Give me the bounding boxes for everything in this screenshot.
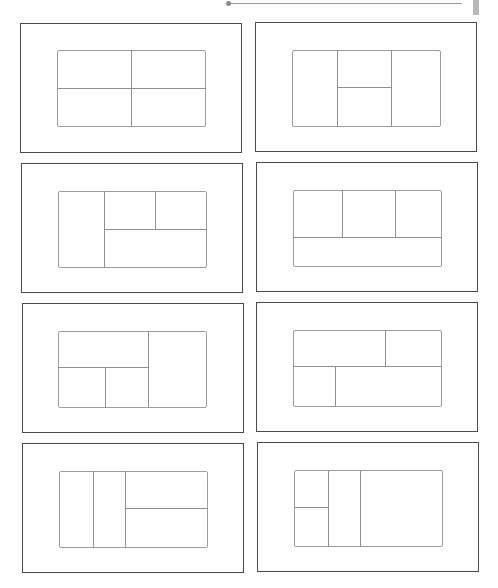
grid-divider-vertical [335, 366, 336, 407]
grid-divider-horizontal [293, 366, 442, 367]
layout-grid-frame [292, 50, 441, 127]
grid-divider-vertical [385, 330, 386, 366]
grid-divider-vertical [328, 470, 329, 547]
grid-divider-vertical [342, 190, 343, 237]
grid-divider-vertical [105, 367, 106, 408]
layout-grid-frame [294, 470, 443, 547]
grid-divider-vertical [148, 331, 149, 408]
grid-divider-horizontal [125, 508, 208, 509]
layout-grid-frame [293, 190, 442, 267]
grid-divider-vertical [360, 470, 361, 547]
grid-divider-horizontal [294, 507, 328, 508]
grid-divider-vertical [125, 471, 126, 548]
grid-divider-vertical [391, 50, 392, 127]
layout-grid-frame [58, 331, 207, 408]
grid-divider-horizontal [104, 229, 207, 230]
grid-divider-horizontal [58, 367, 148, 368]
grid-divider-vertical [93, 471, 94, 548]
grid-divider-horizontal [293, 237, 442, 238]
header-rule-dot [226, 1, 231, 6]
layout-grid-frame [293, 330, 442, 407]
grid-divider-horizontal [337, 87, 391, 88]
grid-divider-vertical [337, 50, 338, 127]
header-rule-line [228, 3, 462, 4]
grid-divider-vertical [155, 191, 156, 229]
page-tab-marker [473, 0, 479, 15]
grid-divider-vertical [395, 190, 396, 237]
grid-divider-horizontal [57, 88, 206, 89]
layout-grid-frame [59, 471, 208, 548]
